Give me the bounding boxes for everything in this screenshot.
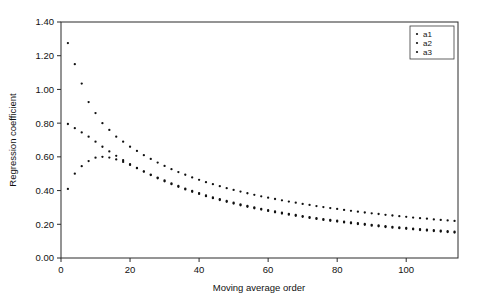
y-tick-label: 0.80 <box>36 118 55 129</box>
data-point-a2 <box>108 150 110 152</box>
x-tick-label: 20 <box>125 264 136 275</box>
data-point-a3 <box>67 188 69 190</box>
data-point-a3 <box>357 222 359 224</box>
data-point-a3 <box>329 219 331 221</box>
data-point-a3 <box>157 176 159 178</box>
data-point-a3 <box>446 230 448 232</box>
data-point-a1 <box>453 220 455 222</box>
data-point-a1 <box>129 146 131 148</box>
data-point-a3 <box>239 203 241 205</box>
data-point-a3 <box>232 202 234 204</box>
data-point-a2 <box>101 146 103 148</box>
data-point-a3 <box>177 185 179 187</box>
x-axis-title: Moving average order <box>213 282 305 293</box>
data-point-a3 <box>101 156 103 158</box>
data-point-a3 <box>433 229 435 231</box>
x-axis-ticks: 020406080100 <box>58 258 414 275</box>
plot-frame <box>61 22 458 258</box>
regression-coefficient-scatter-chart: 0.000.200.400.600.801.001.201.40 0204060… <box>0 0 477 307</box>
data-point-a3 <box>281 212 283 214</box>
data-point-a3 <box>94 157 96 159</box>
data-point-a3 <box>350 221 352 223</box>
data-point-a1 <box>226 187 228 189</box>
data-point-a3 <box>136 167 138 169</box>
data-point-a1 <box>329 207 331 209</box>
data-point-a1 <box>315 205 317 207</box>
data-point-a3 <box>295 214 297 216</box>
data-point-a2 <box>81 131 83 133</box>
data-point-a1 <box>170 168 172 170</box>
data-point-a1 <box>336 208 338 210</box>
data-point-a3 <box>129 164 131 166</box>
data-point-a3 <box>253 206 255 208</box>
data-point-a2 <box>94 141 96 143</box>
data-point-a3 <box>108 156 110 158</box>
data-point-a3 <box>315 217 317 219</box>
data-point-a3 <box>143 170 145 172</box>
data-point-a3 <box>212 196 214 198</box>
data-point-a1 <box>419 217 421 219</box>
y-tick-label: 0.40 <box>36 185 55 196</box>
data-point-a1 <box>239 190 241 192</box>
data-point-a3 <box>371 224 373 226</box>
data-point-a1 <box>219 185 221 187</box>
data-point-a1 <box>177 171 179 173</box>
data-point-a1 <box>274 198 276 200</box>
legend-label-a3: a3 <box>423 48 432 57</box>
data-point-a3 <box>440 230 442 232</box>
data-point-a3 <box>302 215 304 217</box>
data-point-a3 <box>87 160 89 162</box>
data-point-a1 <box>377 213 379 215</box>
data-point-a1 <box>343 209 345 211</box>
x-tick-label: 0 <box>58 264 63 275</box>
data-point-a3 <box>274 210 276 212</box>
data-point-a3 <box>377 224 379 226</box>
data-point-a1 <box>281 199 283 201</box>
data-point-a3 <box>412 228 414 230</box>
data-point-a1 <box>157 161 159 163</box>
y-tick-label: 1.40 <box>36 16 55 27</box>
data-point-a3 <box>170 182 172 184</box>
y-tick-label: 1.00 <box>36 84 55 95</box>
data-point-a1 <box>253 194 255 196</box>
data-point-a3 <box>453 231 455 233</box>
legend-marker-a2 <box>416 42 418 44</box>
data-point-a1 <box>391 214 393 216</box>
data-point-a3 <box>115 158 117 160</box>
data-point-a3 <box>205 194 207 196</box>
data-point-a1 <box>405 216 407 218</box>
x-tick-label: 80 <box>332 264 343 275</box>
data-point-a1 <box>308 204 310 206</box>
legend-marker-a1 <box>416 33 418 35</box>
legend-label-a1: a1 <box>423 30 432 39</box>
data-point-a3 <box>419 228 421 230</box>
data-point-a3 <box>405 227 407 229</box>
data-point-a1 <box>101 122 103 124</box>
data-point-a1 <box>357 210 359 212</box>
data-point-a1 <box>143 154 145 156</box>
data-point-a3 <box>398 226 400 228</box>
data-point-a1 <box>295 202 297 204</box>
data-point-a3 <box>260 208 262 210</box>
chart-legend: a1 a2 a3 <box>410 26 454 59</box>
data-point-a1 <box>371 212 373 214</box>
data-point-a1 <box>136 150 138 152</box>
data-point-a3 <box>246 205 248 207</box>
data-point-a3 <box>384 225 386 227</box>
data-point-a1 <box>350 210 352 212</box>
data-point-a2 <box>87 135 89 137</box>
data-point-a1 <box>184 174 186 176</box>
data-point-a3 <box>191 190 193 192</box>
data-point-a2 <box>115 155 117 157</box>
data-point-a3 <box>74 173 76 175</box>
data-point-a1 <box>67 42 69 44</box>
data-point-a1 <box>108 129 110 131</box>
data-point-a3 <box>150 173 152 175</box>
data-point-a3 <box>336 220 338 222</box>
data-point-a3 <box>184 187 186 189</box>
x-tick-label: 60 <box>263 264 274 275</box>
y-tick-label: 1.20 <box>36 50 55 61</box>
series-a1-points <box>67 42 456 222</box>
data-point-a1 <box>364 211 366 213</box>
data-point-a1 <box>94 112 96 114</box>
